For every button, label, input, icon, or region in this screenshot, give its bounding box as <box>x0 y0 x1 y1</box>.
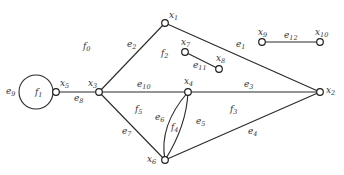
edge-label-e10: e10 <box>137 79 151 91</box>
edge-label-e7: e7 <box>122 126 132 138</box>
face-label-f0: f0 <box>82 41 90 53</box>
edge-label-e3: e3 <box>244 79 253 91</box>
vertex-x7 <box>182 49 189 56</box>
vertex-x1 <box>162 20 169 27</box>
node-label-x6: x6 <box>147 154 156 166</box>
face-label-f1: f1 <box>34 87 42 99</box>
vertex-x4 <box>185 89 192 96</box>
edges-layer <box>19 23 320 160</box>
edge-label-e6: e6 <box>155 112 164 124</box>
node-label-x9: x9 <box>258 27 267 39</box>
node-label-x10: x10 <box>315 27 328 39</box>
node-label-x5: x5 <box>60 78 69 90</box>
node-label-x1: x1 <box>169 10 178 22</box>
edge-e7 <box>99 92 165 160</box>
vertex-x9 <box>259 39 266 46</box>
node-label-x7: x7 <box>181 37 191 49</box>
vertex-x5 <box>53 89 60 96</box>
edge-label-e8: e8 <box>74 93 83 105</box>
edge-label-e4: e4 <box>248 126 257 138</box>
edge-label-e1: e1 <box>236 39 245 51</box>
vertex-x2 <box>317 89 324 96</box>
edge-e4 <box>165 92 320 160</box>
vertex-x10 <box>317 39 324 46</box>
face-label-f3: f3 <box>229 104 237 116</box>
vertex-x6 <box>162 157 169 164</box>
edge-label-e12: e12 <box>284 30 298 42</box>
face-label-f2: f2 <box>160 48 168 60</box>
node-label-x2: x2 <box>326 85 335 97</box>
edge-label-e2: e2 <box>127 39 136 51</box>
edge-e2 <box>99 23 165 92</box>
edge-label-e9: e9 <box>6 86 15 98</box>
vertex-x8 <box>216 66 223 73</box>
face-label-f5: f5 <box>134 104 142 116</box>
graph-diagram: e1e2e3e4e5e6e7e8e9e10e11e12x1x2x3x4x5x6x… <box>0 0 344 175</box>
node-label-x8: x8 <box>216 53 225 65</box>
node-label-x4: x4 <box>184 76 193 88</box>
node-label-x3: x3 <box>88 78 97 90</box>
labels-layer: e1e2e3e4e5e6e7e8e9e10e11e12x1x2x3x4x5x6x… <box>6 10 335 166</box>
edge-label-e5: e5 <box>196 116 205 128</box>
face-label-f4: f4 <box>170 122 178 134</box>
